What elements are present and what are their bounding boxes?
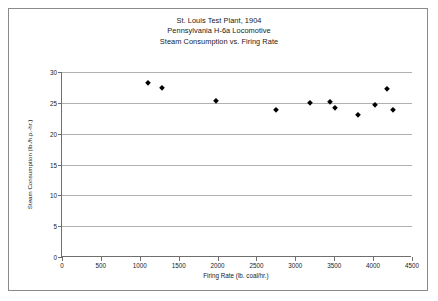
y-gridline xyxy=(62,195,412,196)
x-tick-mark xyxy=(373,257,374,261)
data-point xyxy=(159,85,165,91)
y-tick-mark xyxy=(58,165,62,166)
y-gridline xyxy=(62,103,412,104)
x-tick-mark xyxy=(334,257,335,261)
data-point xyxy=(390,107,396,113)
x-tick-mark xyxy=(101,257,102,261)
data-point xyxy=(384,86,390,92)
y-gridline xyxy=(62,134,412,135)
x-tick-mark xyxy=(295,257,296,261)
x-tick-mark xyxy=(256,257,257,261)
y-tick-label: 20 xyxy=(50,130,57,137)
x-tick-label: 4500 xyxy=(405,262,419,269)
x-tick-label: 3500 xyxy=(327,262,341,269)
x-tick-label: 500 xyxy=(96,262,107,269)
x-tick-mark xyxy=(179,257,180,261)
y-tick-mark xyxy=(58,134,62,135)
title-line-3: Steam Consumption vs. Firing Rate xyxy=(0,37,438,47)
y-gridline xyxy=(62,165,412,166)
x-tick-mark xyxy=(62,257,63,261)
x-tick-label: 4000 xyxy=(366,262,380,269)
data-point xyxy=(355,112,361,118)
data-point xyxy=(307,100,313,106)
data-point xyxy=(145,80,151,86)
chart-title: St. Louis Test Plant, 1904 Pennsylvania … xyxy=(0,16,438,47)
data-point xyxy=(332,105,338,111)
y-tick-mark xyxy=(58,226,62,227)
x-axis-title: Firing Rate (lb. coal/hr.) xyxy=(61,272,411,279)
chart-figure: St. Louis Test Plant, 1904 Pennsylvania … xyxy=(0,0,438,301)
x-tick-label: 2500 xyxy=(249,262,263,269)
y-tick-label: 25 xyxy=(50,99,57,106)
y-tick-mark xyxy=(58,72,62,73)
x-tick-label: 0 xyxy=(60,262,64,269)
title-line-2: Pennsylvania H-6a Locomotive xyxy=(0,26,438,36)
y-tick-label: 0 xyxy=(53,254,57,261)
data-point xyxy=(327,99,333,105)
data-point xyxy=(273,107,279,113)
y-axis-title: Steam Consumption (lb./h.p.-hr.) xyxy=(26,72,38,257)
x-tick-label: 1500 xyxy=(172,262,186,269)
y-gridline xyxy=(62,72,412,73)
y-tick-label: 15 xyxy=(50,161,57,168)
x-tick-mark xyxy=(412,257,413,261)
y-tick-label: 30 xyxy=(50,69,57,76)
y-tick-mark xyxy=(58,195,62,196)
plot-area: 0510152025300500100015002000250030003500… xyxy=(61,72,411,257)
x-tick-label: 2000 xyxy=(211,262,225,269)
x-tick-label: 1000 xyxy=(133,262,147,269)
y-tick-label: 10 xyxy=(50,192,57,199)
data-point xyxy=(372,102,378,108)
x-tick-mark xyxy=(218,257,219,261)
title-line-1: St. Louis Test Plant, 1904 xyxy=(0,16,438,26)
y-tick-mark xyxy=(58,103,62,104)
y-gridline xyxy=(62,226,412,227)
x-tick-mark xyxy=(140,257,141,261)
y-tick-label: 5 xyxy=(53,223,57,230)
x-tick-label: 3000 xyxy=(288,262,302,269)
